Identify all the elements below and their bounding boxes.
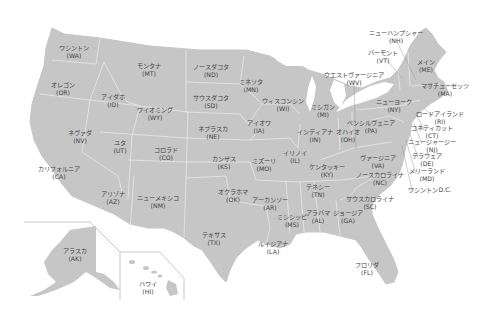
state-abbr: (VA): [360, 162, 396, 170]
state-abbr: (AR): [252, 204, 288, 212]
state-name: ウィスコンシン: [262, 97, 304, 105]
state-abbr: (NM): [137, 202, 179, 210]
state-label: テキサス(TX): [202, 231, 226, 246]
state-name: ワシントン: [59, 44, 89, 52]
state-name: ニューハンプシャー: [369, 29, 423, 37]
state-abbr: (FL): [355, 269, 379, 277]
state-abbr: (UT): [113, 147, 126, 155]
state-abbr: (OR): [51, 89, 75, 97]
state-abbr: (WV): [324, 79, 384, 87]
state-name: ハワイ: [139, 280, 157, 288]
state-abbr: (TN): [306, 191, 330, 199]
state-label: ペンシルヴェニア(PA): [347, 119, 395, 134]
state-label: ウィスコンシン(WI): [262, 97, 304, 112]
state-label: コロラド(CO): [154, 146, 178, 161]
state-name: ウエストヴァージニア: [324, 71, 384, 79]
state-name: モンタナ: [137, 62, 161, 70]
state-label: テネシー(TN): [306, 183, 330, 198]
state-label: ユタ(UT): [113, 139, 126, 154]
state-name: バーモント: [368, 49, 398, 57]
state-abbr: (VT): [368, 57, 398, 65]
state-label: ハワイ(HI): [139, 280, 157, 295]
state-abbr: (OK): [218, 196, 248, 204]
state-label: ミズーリ(MO): [252, 157, 276, 172]
state-label: マサチューセッツ(MA): [421, 82, 469, 97]
state-abbr: (MN): [239, 86, 263, 94]
state-name: メリーランド: [409, 167, 445, 175]
state-name: ノースダコタ: [193, 63, 229, 71]
state-label: ニューハンプシャー(NH): [369, 29, 423, 44]
state-abbr: (PA): [347, 127, 395, 135]
state-abbr: (ND): [193, 71, 229, 79]
state-name: サウスカロライナ: [346, 195, 394, 203]
state-abbr: (NE): [198, 133, 228, 141]
state-label: ニューメキシコ(NM): [137, 194, 179, 209]
state-name: オレゴン: [51, 81, 75, 89]
state-name: テキサス: [202, 231, 226, 239]
state-abbr: (KY): [309, 171, 345, 179]
state-abbr: (CO): [154, 154, 178, 162]
state-abbr: (HI): [139, 288, 157, 296]
state-abbr: (MI): [311, 111, 335, 119]
state-label: ノースダコタ(ND): [193, 63, 229, 78]
state-abbr: (WY): [137, 114, 173, 122]
state-label: ルイジアナ(LA): [258, 240, 288, 255]
state-label: ヴァージニア(VA): [360, 154, 396, 169]
state-abbr: (CA): [38, 173, 80, 181]
state-abbr: (NH): [369, 37, 423, 45]
state-name: メイン: [417, 58, 435, 66]
state-label: フロリダ(FL): [355, 261, 379, 276]
state-name: ネヴァダ: [68, 129, 92, 137]
state-label: ロードアイランド(RI): [416, 110, 464, 125]
state-abbr: (ID): [101, 101, 125, 109]
state-label: ワシントンD.C.: [408, 186, 451, 194]
state-name: マサチューセッツ: [421, 82, 469, 90]
state-abbr: (NC): [356, 179, 404, 187]
state-label: カンザス(KS): [212, 155, 236, 170]
state-abbr: (WI): [262, 105, 304, 113]
state-name: オクラホマ: [218, 188, 248, 196]
state-name: ワイオミング: [137, 106, 173, 114]
state-label: インディアナ(IN): [297, 128, 333, 143]
state-label: モンタナ(MT): [137, 62, 161, 77]
state-name: アリゾナ: [101, 190, 125, 198]
state-label: アイオワ(IA): [247, 119, 271, 134]
state-name: ケンタッキー: [309, 163, 345, 171]
state-label: イリノイ(IL): [283, 149, 307, 164]
state-name: ニューメキシコ: [137, 194, 179, 202]
state-name: カンザス: [212, 155, 236, 163]
state-name: ミシシッピ: [277, 213, 307, 221]
state-label: アラスカ(AK): [63, 247, 87, 262]
state-name: サウスダコタ: [193, 94, 229, 102]
state-abbr: (AL): [306, 217, 330, 225]
state-label: バーモント(VT): [368, 49, 398, 64]
state-label: アリゾナ(AZ): [101, 190, 125, 205]
state-abbr: (SD): [193, 102, 229, 110]
state-abbr: (WA): [59, 52, 89, 60]
state-abbr: (OH): [336, 136, 360, 144]
state-label: カリフォルニア(CA): [38, 165, 80, 180]
state-name: ユタ: [113, 139, 126, 147]
state-label: サウスカロライナ(SC): [346, 195, 394, 210]
state-name: カリフォルニア: [38, 165, 80, 173]
state-label: ミネソタ(MN): [239, 78, 263, 93]
state-abbr: (LA): [258, 248, 288, 256]
state-name: ノースカロライナ: [356, 171, 404, 179]
state-label: ネヴァダ(NV): [68, 129, 92, 144]
state-label: ミシシッピ(MS): [277, 213, 307, 228]
state-abbr: (AK): [63, 255, 87, 263]
state-abbr: (NY): [376, 106, 412, 114]
state-abbr: (KS): [212, 163, 236, 171]
state-name: コネティカット: [411, 124, 453, 132]
state-name: ヴァージニア: [360, 154, 396, 162]
state-abbr: (IN): [297, 136, 333, 144]
state-name: ニュージャージー: [408, 138, 456, 146]
state-abbr: (IL): [283, 157, 307, 165]
state-abbr: (MO): [252, 165, 276, 173]
state-label: ウエストヴァージニア(WV): [324, 71, 384, 86]
state-abbr: (GA): [333, 217, 363, 225]
state-abbr: (MS): [277, 221, 307, 229]
state-label: ワイオミング(WY): [137, 106, 173, 121]
state-abbr: (AZ): [101, 198, 125, 206]
state-label: ワシントン(WA): [59, 44, 89, 59]
